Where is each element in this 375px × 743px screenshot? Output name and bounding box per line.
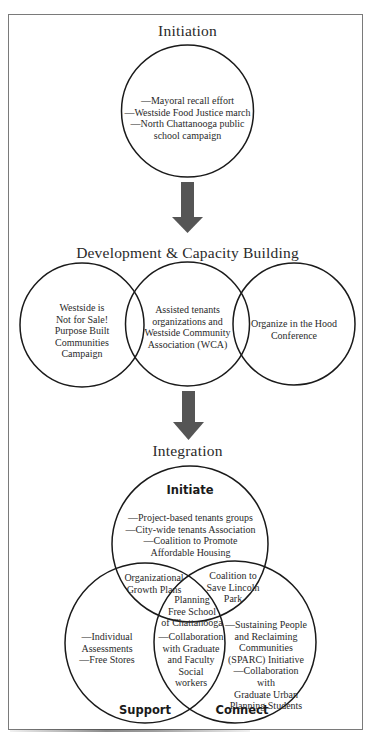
venn-support-connect-text: —Collaboration with Graduate and Faculty… <box>154 631 228 689</box>
development-left-text: Westside is Not for Sale! Purpose Built … <box>32 302 132 360</box>
down-arrow-icon <box>173 391 204 440</box>
development-right-text: Organize in the Hood Conference <box>240 318 348 341</box>
stage-title-initiation: Initiation <box>0 22 375 40</box>
venn-support-text: —Individual Assessments —Free Stores <box>72 631 142 666</box>
venn-label-initiate: Initiate <box>150 483 230 497</box>
venn-label-support: Support <box>110 703 180 717</box>
stage-title-development: Development & Capacity Building <box>0 244 375 262</box>
development-middle-text: Assisted tenants organizations and Wests… <box>130 304 245 350</box>
stage-title-integration: Integration <box>0 442 375 460</box>
initiation-circle-text: —Mayoral recall effort —Westside Food Ju… <box>117 95 258 141</box>
venn-initiate-support-text: Organizational Growth Plans <box>118 572 190 595</box>
venn-center-text: Planning Free School of Chattanooga <box>156 594 228 629</box>
venn-connect-text: —Sustaining People and Reclaiming Commun… <box>224 619 308 712</box>
venn-initiate-text: —Project-based tenants groups —City-wide… <box>118 512 263 558</box>
down-arrow-icon <box>172 182 203 233</box>
